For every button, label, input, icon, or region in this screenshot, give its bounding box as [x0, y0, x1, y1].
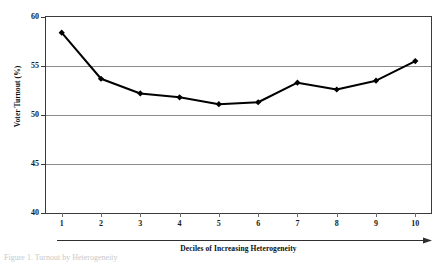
x-tick-mark [415, 213, 416, 217]
chart-figure: 4045505560 12345678910 Voter Turnout (%)… [0, 0, 444, 265]
caption-fragment: Figure 1. Turnout by Heterogeneity [4, 253, 118, 262]
x-tick-mark [376, 213, 377, 217]
x-tick-mark [337, 213, 338, 217]
x-axis-direction-arrow [57, 237, 432, 244]
x-axis-label: Deciles of Increasing Heterogeneity [45, 244, 432, 253]
x-tick-label: 3 [128, 220, 152, 228]
x-tick-label: 10 [403, 220, 427, 228]
x-tick-label: 4 [168, 220, 192, 228]
x-tick-mark [297, 213, 298, 217]
x-tick-label: 2 [89, 220, 113, 228]
x-tick-label: 9 [364, 220, 388, 228]
x-tick-mark [180, 213, 181, 217]
x-tick-mark [258, 213, 259, 217]
x-tick-mark [101, 213, 102, 217]
x-axis-ticks: 12345678910 [0, 0, 444, 265]
x-tick-mark [62, 213, 63, 217]
x-tick-label: 5 [207, 220, 231, 228]
x-tick-label: 1 [50, 220, 74, 228]
x-tick-mark [219, 213, 220, 217]
y-axis-label: Voter Turnout (%) [13, 42, 22, 152]
x-tick-label: 6 [246, 220, 270, 228]
x-tick-label: 7 [285, 220, 309, 228]
x-tick-label: 8 [325, 220, 349, 228]
x-tick-mark [140, 213, 141, 217]
